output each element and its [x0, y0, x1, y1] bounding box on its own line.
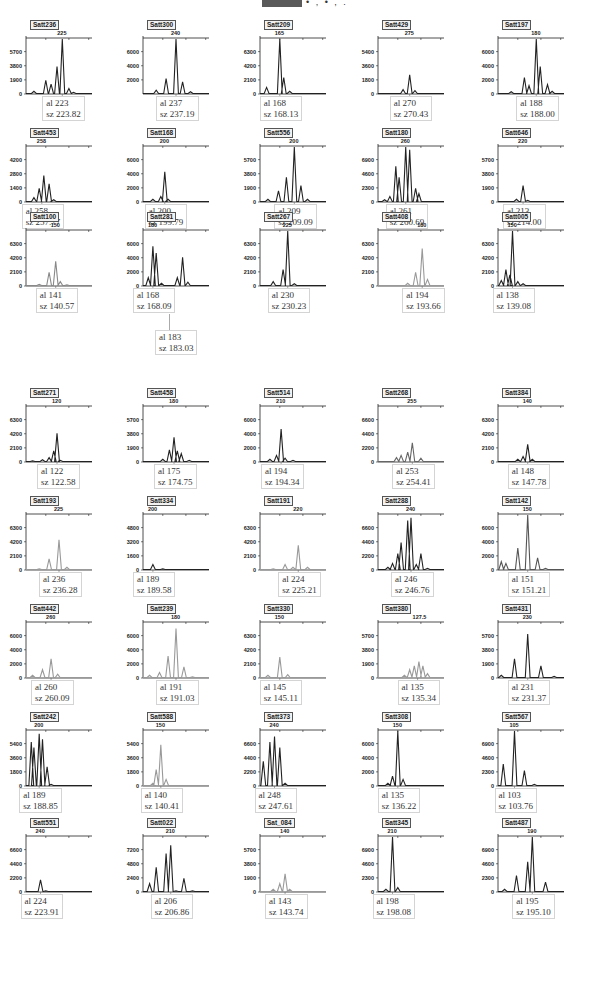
allele-value: al 148: [512, 466, 547, 477]
trace-line: [378, 518, 444, 570]
trace-plot: 5700380019000: [234, 818, 328, 894]
size-value: sz 168.13: [264, 109, 299, 120]
trace-line: [378, 661, 444, 677]
allele-value: al 175: [158, 466, 193, 477]
trace-line: [26, 261, 92, 285]
allele-call-box: al 103sz 103.76: [495, 788, 538, 813]
y-tick-label: 2400: [127, 875, 139, 881]
size-value: sz 194.34: [265, 477, 300, 488]
y-tick-label: 0: [491, 199, 494, 204]
y-tick-label: 6000: [127, 241, 139, 247]
allele-value: al 224: [25, 896, 60, 907]
y-tick-label: 6600: [362, 525, 374, 531]
y-tick-label: 5400: [362, 49, 374, 55]
y-tick-label: 4600: [482, 755, 494, 761]
allele-call-box: al 189sz 189.58: [133, 572, 176, 597]
trace-plot: 6600440022000: [0, 818, 94, 894]
allele-call-box: al 237sz 237.19: [156, 96, 199, 121]
allele-value: al 195: [516, 896, 551, 907]
y-tick-label: 2800: [10, 171, 22, 177]
trace-plot: 6900460023000: [472, 818, 566, 894]
y-tick-label: 4600: [362, 861, 374, 867]
size-value: sz 223.82: [46, 109, 81, 120]
y-tick-label: 2000: [10, 661, 22, 667]
y-tick-label: 0: [136, 199, 139, 204]
allele-call-box: al 175sz 174.75: [154, 464, 197, 489]
connector-line: [169, 314, 170, 330]
y-tick-label: 6000: [10, 633, 22, 639]
trace-line: [378, 75, 444, 94]
header-bar: [262, 0, 302, 7]
trace-plot: 5400360018000: [0, 712, 94, 788]
trace-line: [378, 731, 444, 786]
trace-line: [378, 837, 444, 892]
trace-line: [498, 444, 564, 461]
y-tick-label: 6000: [482, 49, 494, 55]
y-tick-label: 2300: [482, 769, 494, 775]
y-tick-label: 6300: [244, 525, 256, 531]
allele-value: al 253: [396, 466, 431, 477]
allele-call-box: al 206sz 206.86: [151, 894, 194, 919]
y-tick-label: 0: [371, 567, 374, 572]
trace-line: [26, 433, 92, 461]
y-tick-label: 3800: [10, 63, 22, 69]
trace-line: [260, 429, 326, 462]
allele-value: al 183: [159, 332, 194, 343]
y-tick-label: 0: [136, 783, 139, 788]
y-tick-label: 6300: [482, 241, 494, 247]
size-value: sz 247.61: [259, 801, 294, 812]
trace-line: [378, 147, 444, 202]
y-tick-label: 3600: [10, 755, 22, 761]
y-tick-label: 1900: [244, 185, 256, 191]
y-tick-label: 6600: [362, 417, 374, 423]
y-tick-label: 0: [19, 91, 22, 96]
allele-value: al 143: [269, 896, 304, 907]
trace-plot: 6300420021000: [472, 212, 566, 288]
y-tick-label: 3800: [244, 171, 256, 177]
electropherogram-panel: Satt3081506000400020000al 135sz 136.22: [352, 712, 462, 822]
trace-plot: 6000400020000: [472, 20, 566, 96]
y-tick-label: 0: [491, 675, 494, 680]
allele-call-box: al 135sz 135.34: [398, 680, 441, 705]
allele-call-box: al 189sz 188.85: [19, 788, 62, 813]
allele-call-box: al 253sz 254.41: [392, 464, 435, 489]
allele-call-box: al 224sz 225.21: [278, 572, 321, 597]
trace-plot: 6000400020000: [472, 496, 566, 572]
allele-call-box: al 135sz 136.22: [378, 788, 421, 813]
y-tick-label: 0: [253, 283, 256, 288]
allele-call-box: al 224sz 223.91: [21, 894, 64, 919]
size-value: sz 195.10: [516, 907, 551, 918]
size-value: sz 206.86: [155, 907, 190, 918]
y-tick-label: 5700: [482, 157, 494, 163]
size-value: sz 236.28: [43, 585, 78, 596]
allele-value: al 231: [512, 682, 547, 693]
y-tick-label: 6300: [10, 417, 22, 423]
y-tick-label: 6300: [482, 417, 494, 423]
electropherogram-panel: Satt4871906900460023000al 195sz 195.10: [472, 818, 582, 928]
trace-plot: 6900460023000: [352, 128, 446, 204]
trace-line: [378, 249, 444, 286]
y-tick-label: 3800: [127, 431, 139, 437]
y-tick-label: 3800: [482, 171, 494, 177]
y-tick-label: 5700: [482, 633, 494, 639]
y-tick-label: 2200: [10, 875, 22, 881]
y-tick-label: 4000: [362, 755, 374, 761]
y-tick-label: 2100: [244, 661, 256, 667]
y-tick-label: 4000: [127, 63, 139, 69]
y-tick-label: 2200: [362, 553, 374, 559]
trace-line: [498, 185, 564, 201]
electropherogram-panel: Satt3841406300420021000al 148sz 147.78: [472, 388, 582, 498]
header-marks: • , • , .: [306, 0, 348, 7]
y-tick-label: 4200: [10, 157, 22, 163]
size-value: sz 189.58: [137, 585, 172, 596]
trace-line: [260, 147, 326, 202]
y-tick-label: 5700: [244, 847, 256, 853]
y-tick-label: 4200: [244, 255, 256, 261]
allele-value: al 223: [46, 98, 81, 109]
allele-call-box-second: al 183sz 183.03: [155, 330, 198, 355]
y-tick-label: 4000: [10, 647, 22, 653]
trace-line: [498, 515, 564, 570]
y-tick-label: 0: [136, 889, 139, 894]
allele-value: al 194: [406, 290, 441, 301]
y-tick-label: 4200: [362, 255, 374, 261]
